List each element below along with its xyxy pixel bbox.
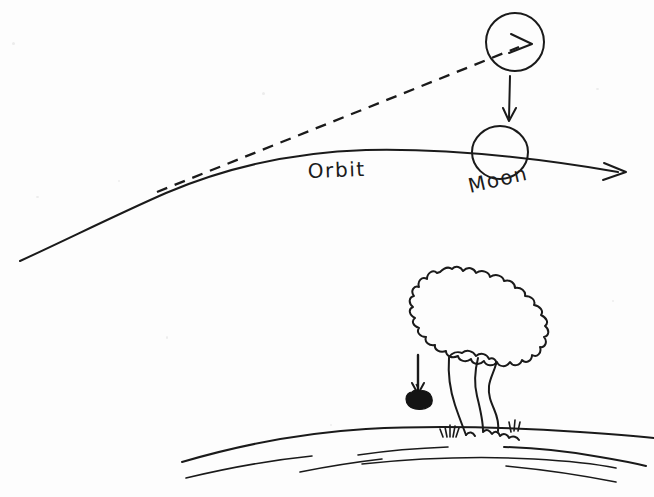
orbit-label: Orbit [307, 157, 366, 183]
diagram-svg: Orbit Moon [0, 0, 654, 497]
diagram-canvas: Orbit Moon [0, 0, 654, 497]
projectile-circle [486, 13, 544, 71]
tree-canopy [410, 267, 549, 366]
earth-surface [182, 427, 654, 482]
moon-fall-arrow [503, 76, 516, 121]
